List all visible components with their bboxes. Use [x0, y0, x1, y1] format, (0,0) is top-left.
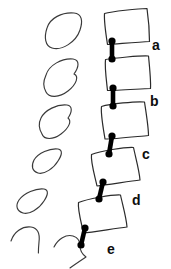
disc-outline-1	[45, 13, 81, 49]
disc-outline-4	[32, 149, 61, 173]
process-outline-group	[11, 227, 86, 268]
connector-e-dot-top	[81, 224, 88, 231]
connector-a	[108, 37, 115, 62]
spine-diagram-svg: a b c d e	[0, 0, 171, 269]
disc-outline-3	[39, 105, 71, 139]
vertebral-body-3	[101, 102, 148, 139]
connector-e	[77, 224, 88, 248]
panel-label-b: b	[150, 93, 159, 109]
connector-c-dot-top	[108, 132, 115, 139]
disc-outline-5	[17, 189, 47, 214]
connector-b-dot-bottom	[109, 102, 116, 109]
panel-label-d: d	[132, 192, 141, 208]
connector-a-dot-bottom	[108, 55, 115, 62]
panel-label-a: a	[152, 37, 160, 53]
connector-e-dot-bottom	[77, 241, 84, 248]
panel-label-e: e	[107, 241, 115, 257]
connector-c-dot-bottom	[105, 150, 112, 157]
connector-d-dot-top	[99, 178, 106, 185]
disc-outline-group	[17, 13, 82, 213]
figure-root: a b c d e	[0, 0, 171, 269]
vertebral-body-4	[91, 147, 140, 186]
connector-d-dot-bottom	[95, 195, 102, 202]
panel-label-c: c	[142, 146, 150, 162]
connector-b-dot-top	[109, 84, 116, 91]
connector-b	[109, 84, 116, 109]
process-outline-lower-left	[11, 227, 39, 253]
connector-a-dot-top	[108, 37, 115, 44]
disc-outline-2	[44, 59, 78, 96]
